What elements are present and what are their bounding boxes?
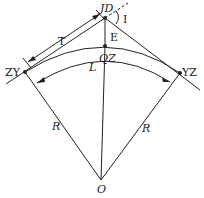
label-e: E — [110, 31, 118, 44]
back-tangent-line — [6, 18, 105, 84]
forward-tangent-line — [105, 18, 200, 90]
radius-left — [25, 72, 101, 180]
label-i: I — [123, 13, 127, 26]
center-line — [101, 46, 105, 180]
curve-diagram: JD I T E ZY QZ YZ L R R O — [0, 0, 204, 198]
label-zy: ZY — [5, 66, 21, 79]
zy-point — [23, 70, 27, 74]
label-jd: JD — [98, 2, 113, 15]
label-o: O — [97, 183, 106, 196]
label-r-right: R — [141, 122, 150, 135]
label-r-left: R — [51, 120, 60, 133]
deflection-arc — [116, 11, 119, 24]
label-l: L — [88, 61, 96, 74]
radius-right — [101, 73, 180, 180]
label-yz: YZ — [181, 66, 197, 79]
qz-point — [103, 44, 107, 48]
label-qz: QZ — [99, 52, 116, 65]
jd-point — [103, 16, 107, 20]
label-t: T — [58, 35, 66, 48]
